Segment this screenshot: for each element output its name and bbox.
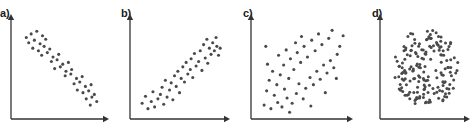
scatter-point: [428, 98, 431, 101]
y-axis-arrow-icon: [377, 14, 383, 20]
scatter-point: [412, 69, 415, 72]
scatter-point: [448, 83, 451, 86]
scatter-point: [444, 67, 447, 70]
scatter-point: [423, 88, 426, 91]
scatter-point: [420, 48, 423, 51]
scatter-point: [403, 45, 406, 48]
scatter-point: [433, 92, 436, 95]
scatter-point: [435, 31, 438, 34]
scatter-point: [424, 52, 427, 55]
scatter-point: [415, 96, 418, 99]
scatter-point: [453, 56, 456, 59]
scatter-point: [448, 92, 451, 95]
scatter-point: [406, 53, 409, 56]
scatter-point: [436, 43, 439, 46]
scatter-point: [414, 102, 417, 105]
scatter-point: [449, 71, 452, 74]
scatter-point: [416, 91, 419, 94]
scatter-point: [440, 61, 443, 64]
scatter-point: [439, 40, 442, 43]
scatter-point: [436, 86, 439, 89]
scatter-point: [402, 49, 405, 52]
scatter-point: [416, 55, 419, 58]
scatter-point: [433, 49, 436, 52]
scatter-point: [424, 101, 427, 104]
scatter-point: [394, 55, 397, 58]
scatter-point: [416, 86, 419, 89]
scatter-point: [438, 89, 441, 92]
scatter-point: [439, 53, 442, 56]
scatter-point: [456, 69, 459, 72]
scatter-point: [417, 74, 420, 77]
scatter-point: [398, 65, 401, 68]
scatter-point: [441, 80, 444, 83]
scatter-point: [413, 38, 416, 41]
scatter-point: [409, 80, 412, 83]
scatter-point: [452, 79, 455, 82]
scatter-point: [401, 71, 404, 74]
scatter-point: [445, 59, 448, 62]
scatter-plot-d: [0, 0, 471, 137]
scatter-point: [399, 83, 402, 86]
scatter-point: [447, 66, 450, 69]
scatter-point: [400, 86, 403, 89]
scatter-point: [394, 76, 397, 79]
scatter-point: [429, 58, 432, 61]
scatter-point: [424, 79, 427, 82]
scatter-point: [411, 32, 414, 35]
scatter-point: [456, 61, 459, 64]
scatter-point: [424, 65, 427, 68]
scatter-point: [437, 97, 440, 100]
scatter-point: [447, 87, 450, 90]
scatter-point: [420, 57, 423, 60]
scatter-point: [444, 42, 447, 45]
scatter-point: [418, 63, 421, 66]
scatter-point: [401, 66, 404, 69]
x-axis-arrow-icon: [464, 116, 470, 122]
scatter-point: [435, 76, 438, 79]
scatter-point: [427, 75, 430, 78]
scatter-point: [409, 54, 412, 57]
scatter-point: [404, 72, 407, 75]
scatter-point: [452, 87, 455, 90]
scatter-point: [410, 65, 413, 68]
scatter-point: [425, 38, 428, 41]
scatter-point: [448, 45, 451, 48]
scatter-point: [422, 71, 425, 74]
scatter-point: [414, 51, 417, 54]
scatter-point: [417, 80, 420, 83]
scatter-point: [418, 95, 421, 98]
scatter-point: [404, 77, 407, 80]
scatter-point: [431, 87, 434, 90]
scatter-point: [397, 75, 400, 78]
scatter-point: [403, 58, 406, 61]
scatter-point: [445, 96, 448, 99]
scatter-point: [411, 44, 414, 47]
scatter-point: [449, 42, 452, 45]
scatter-point: [446, 48, 449, 51]
scatter-point: [430, 46, 433, 49]
scatter-point: [442, 74, 445, 77]
scatter-point: [442, 98, 445, 101]
scatter-point: [427, 91, 430, 94]
scatter-point: [412, 91, 415, 94]
scatter-point: [401, 90, 404, 93]
scatter-point: [419, 66, 422, 69]
scatter-point: [441, 90, 444, 93]
scatter-point: [408, 91, 411, 94]
scatter-point: [413, 42, 416, 45]
scatter-point: [405, 83, 408, 86]
scatter-point: [434, 69, 437, 72]
scatter-point: [406, 35, 409, 38]
scatter-point: [422, 93, 425, 96]
correlation-scatterplot-figure: a) b) c) d): [0, 0, 471, 137]
scatter-point: [440, 45, 443, 48]
scatter-point: [422, 96, 425, 99]
scatter-point: [442, 49, 445, 52]
scatter-point: [431, 29, 434, 32]
scatter-point: [450, 74, 453, 77]
scatter-point: [437, 35, 440, 38]
scatter-point: [413, 77, 416, 80]
scatter-point: [401, 62, 404, 65]
scatter-point: [408, 97, 411, 100]
